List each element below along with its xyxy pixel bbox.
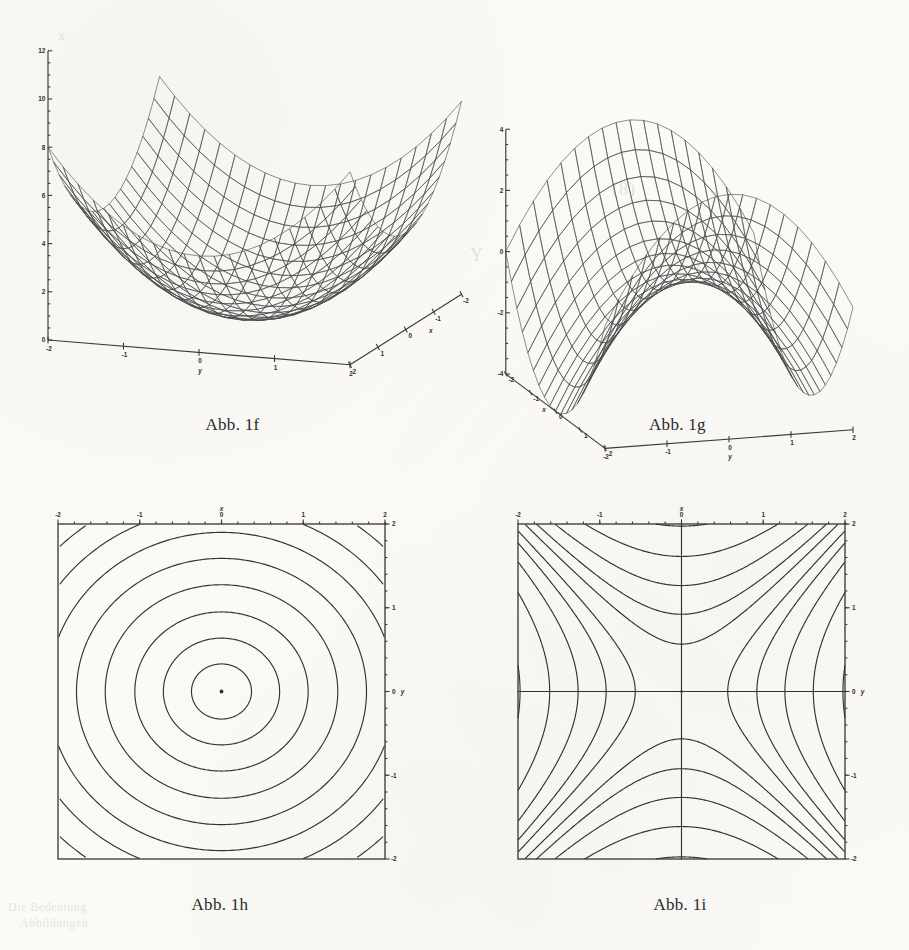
figure-1f-canvas: 024681012-2-1012y210-1-2x xyxy=(10,30,455,400)
y-tick-label-1h: -2 xyxy=(391,855,397,862)
surface-facet-1f xyxy=(247,269,268,285)
surface-facet-1g xyxy=(806,360,825,391)
surface-facet-1g xyxy=(580,296,599,325)
surface-facet-1f xyxy=(288,245,309,261)
surface-facet-1g xyxy=(553,193,572,237)
surface-facet-1g xyxy=(586,193,605,228)
center-marker-1h xyxy=(220,690,224,694)
z-tick-label-1f: 8 xyxy=(42,144,46,151)
z-tick-label-1f: 6 xyxy=(42,192,46,199)
surface-facet-1f xyxy=(338,264,359,280)
x-tick-1f xyxy=(376,344,379,350)
y-tick-label-1i: 1 xyxy=(852,604,856,611)
surface-facet-1f xyxy=(151,216,172,242)
x-tick-label-1f: 2 xyxy=(353,368,357,375)
surface-facet-1g xyxy=(561,387,580,414)
surface-facet-1f xyxy=(188,171,209,203)
surface-facet-1g xyxy=(599,185,618,217)
surface-facet-1f xyxy=(250,260,271,278)
y-tick-label-1f: -2 xyxy=(46,345,52,352)
surface-facet-1f xyxy=(143,118,164,156)
surface-facet-1f xyxy=(396,147,417,180)
surface-facet-1f xyxy=(305,185,326,207)
surface-facet-1g xyxy=(806,243,825,283)
surface-facet-1f xyxy=(426,118,447,155)
x-tick-label-1i: -1 xyxy=(597,511,603,518)
y-axis-label-1g: y xyxy=(727,453,732,461)
surface-facet-1g xyxy=(608,152,627,184)
surface-facet-1f xyxy=(365,167,386,196)
surface-facet-1g xyxy=(641,268,660,282)
surface-facet-1f xyxy=(233,207,254,233)
y-tick-label-1f: 1 xyxy=(274,364,278,371)
surface-facet-1f xyxy=(394,193,415,222)
surface-facet-1f xyxy=(265,253,286,273)
surface-facet-1f xyxy=(54,162,75,194)
x-tick-label-1i: 0 xyxy=(680,511,684,518)
surface-facet-1f xyxy=(343,243,364,265)
center-marker-1i xyxy=(680,690,683,693)
surface-facet-1f xyxy=(411,134,432,169)
surface-facet-1g xyxy=(583,249,602,281)
x-tick-label-1f: -1 xyxy=(435,315,441,322)
surface-facet-1g xyxy=(522,305,541,352)
surface-facet-1f xyxy=(334,281,355,293)
surface-facet-1g xyxy=(566,383,585,413)
surface-facet-1g xyxy=(671,130,690,169)
surface-facet-1f xyxy=(207,231,228,255)
surface-facet-1g xyxy=(577,334,596,360)
surface-facet-1f xyxy=(132,152,153,186)
surface-facet-1f xyxy=(419,177,440,208)
surface-facet-1f xyxy=(48,147,69,181)
surface-facet-1g xyxy=(616,120,635,152)
surface-facet-1g xyxy=(748,260,767,282)
surface-facet-1g xyxy=(622,262,641,282)
surface-facet-1f xyxy=(375,180,396,209)
surface-facet-1f xyxy=(220,269,241,284)
plot-1i-group: -2-1012x210-1-2y xyxy=(515,505,865,863)
contour-line-1h xyxy=(358,837,383,857)
surface-facet-1f xyxy=(224,177,245,207)
surface-facet-1f xyxy=(181,245,202,267)
figure-1g: -4-2024-2-1012x-2-1012y xyxy=(455,30,900,400)
z-tick-label-1g: -4 xyxy=(498,370,504,377)
x-axis-label-1h: x xyxy=(219,505,224,512)
plot-1h-group: -2-1012x210-1-2y xyxy=(55,505,405,863)
surface-facet-1f xyxy=(166,232,187,256)
z-tick-label-1g: 4 xyxy=(500,126,504,133)
caption-1f: Abb. 1f xyxy=(10,415,455,435)
surface-facet-1g xyxy=(605,208,624,237)
x-tick-label-1g: 2 xyxy=(609,450,613,457)
x-tick-label-1g: -2 xyxy=(508,376,514,383)
y-tick-label-1i: 0 xyxy=(852,688,856,695)
y-tick-label-1g: 0 xyxy=(728,444,732,451)
surface-facet-1f xyxy=(218,197,239,225)
surface-facet-1g xyxy=(602,255,621,281)
surface-facet-1f xyxy=(198,203,219,231)
surface-facet-1f xyxy=(194,151,215,185)
surface-facet-1f xyxy=(300,302,321,312)
y-tick-label-1f: -1 xyxy=(122,351,128,358)
surface-facet-1g xyxy=(588,128,607,166)
figure-1i: -2-1012x210-1-2y xyxy=(480,500,900,880)
surface-facet-1g xyxy=(677,160,696,196)
y-tick-label-1f: 0 xyxy=(198,357,202,364)
y-tick-label-1g: 1 xyxy=(790,439,794,446)
surface-facet-1g xyxy=(790,368,809,395)
surface-facet-1g xyxy=(638,221,657,241)
surface-facet-1g xyxy=(539,358,558,396)
surface-facet-1g xyxy=(533,181,552,232)
y-tick-label-1g: -2 xyxy=(603,453,609,460)
surface-facet-1f xyxy=(229,155,250,187)
surface-facet-1g xyxy=(602,122,621,157)
surface-facet-1f xyxy=(269,201,290,225)
surface-facet-1f xyxy=(347,260,368,280)
x-tick-label-1f: 0 xyxy=(408,332,412,339)
y-axis-label-1h: y xyxy=(400,688,405,696)
surface-facet-1g xyxy=(663,154,682,187)
surface-facet-1f xyxy=(63,167,84,199)
surface-facet-1f xyxy=(209,165,230,197)
surface-facet-1g xyxy=(748,312,767,330)
z-tick-label-1g: -2 xyxy=(498,309,504,316)
surface-facet-1g xyxy=(602,316,621,355)
